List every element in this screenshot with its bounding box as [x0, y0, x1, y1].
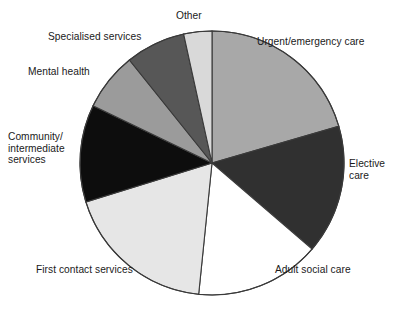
pie-chart-figure: cropped title line Other Urgent/emergenc… [0, 0, 410, 309]
slice-label-mental-health: Mental health [28, 66, 90, 78]
chart-area: Other Urgent/emergency care Elective car… [0, 0, 410, 309]
slice-label-elective-care: Elective care [349, 158, 385, 181]
slice-label-specialised-services: Specialised services [48, 31, 141, 43]
slice-label-first-contact-services: First contact services [36, 264, 133, 276]
slice-label-community-intermediate-services: Community/ intermediate services [8, 131, 65, 166]
pie-slices-group [80, 31, 344, 295]
slice-label-urgent-emergency-care: Urgent/emergency care [257, 36, 365, 48]
slice-label-adult-social-care: Adult social care [275, 264, 351, 276]
slice-label-other: Other [176, 10, 202, 22]
